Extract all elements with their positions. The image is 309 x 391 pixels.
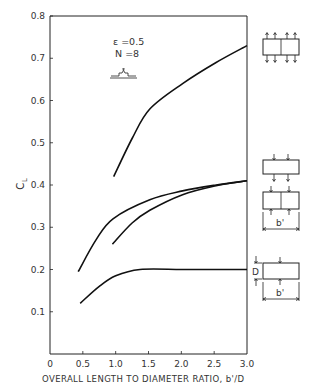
y-axis-title: C L — [15, 178, 29, 190]
dimension-b-label: b' — [276, 218, 284, 228]
y-tick-label: 0.7 — [31, 53, 45, 63]
data-curve — [78, 181, 247, 272]
nozzle-icon — [110, 68, 137, 78]
x-tick-label: 3.0 — [240, 359, 255, 369]
y-tick-label: 0.1 — [31, 307, 45, 317]
x-tick-label: 2.0 — [174, 359, 189, 369]
cl-vs-length-ratio-chart: 0.10.20.30.40.50.60.70.8 00.51.01.52.02.… — [0, 0, 309, 391]
epsilon-annotation: ε =0.5 — [113, 36, 144, 47]
y-axis-title-main: C — [15, 182, 26, 189]
dimension-b-label-2: b' — [276, 288, 284, 298]
diagram-single-cell — [263, 154, 299, 182]
diagram-dimensioned-box: D b' — [252, 256, 299, 301]
x-tick-label: 0 — [47, 359, 53, 369]
diagram-two-cell-outward — [263, 33, 299, 63]
n-annotation: N =8 — [115, 48, 139, 59]
y-axis-title-sub: L — [21, 178, 29, 182]
x-tick-label: 1.0 — [109, 359, 124, 369]
y-tick-label: 0.2 — [31, 265, 45, 275]
y-tick-label: 0.6 — [31, 96, 46, 106]
data-curve — [112, 181, 247, 244]
data-curves — [78, 46, 247, 304]
diagram-two-cell-inward: b' — [263, 186, 299, 231]
x-tick-label: 1.5 — [141, 359, 155, 369]
dimension-d-label: D — [252, 267, 259, 277]
data-curve — [80, 269, 247, 303]
data-curve — [114, 46, 247, 177]
x-tick-label: 2.5 — [207, 359, 221, 369]
y-tick-label: 0.5 — [31, 138, 45, 148]
y-tick-label: 0.4 — [31, 180, 46, 190]
x-axis-title: OVERALL LENGTH TO DIAMETER RATIO, b'/D — [42, 374, 245, 384]
y-tick-label: 0.8 — [31, 11, 46, 21]
y-tick-label: 0.3 — [31, 222, 45, 232]
x-tick-label: 0.5 — [76, 359, 90, 369]
